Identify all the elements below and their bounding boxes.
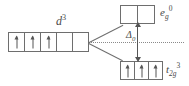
up-arrow-icon bbox=[138, 64, 145, 77]
orbital-cell bbox=[120, 61, 135, 80]
up-arrow-icon bbox=[13, 36, 20, 49]
free-ion-label-superscript: 3 bbox=[62, 13, 66, 22]
up-arrow-icon bbox=[152, 64, 159, 77]
orbital-cell bbox=[72, 32, 89, 52]
orbital-cell bbox=[40, 32, 57, 52]
eg-label-superscript: 0 bbox=[169, 4, 173, 13]
up-arrow-icon bbox=[124, 64, 131, 77]
t2g-label-superscript: 3 bbox=[177, 61, 181, 70]
up-arrow-icon bbox=[45, 36, 52, 49]
orbital-cell bbox=[8, 32, 25, 52]
eg-label-subscript: g bbox=[165, 12, 169, 21]
delta-subscript: 0 bbox=[132, 35, 135, 42]
splitting-energy-label: Δ0 bbox=[126, 30, 135, 43]
tie-line-to-eg bbox=[89, 25, 123, 43]
orbital-cell bbox=[56, 32, 73, 52]
orbital-cell bbox=[134, 61, 149, 80]
tie-line-to-t2g bbox=[89, 43, 123, 61]
eg-label: eg0 bbox=[160, 5, 172, 20]
orbital-cell bbox=[24, 32, 41, 52]
t2g-label-subscript: 2g bbox=[169, 69, 176, 78]
t2g-label: t2g3 bbox=[166, 62, 180, 77]
up-arrow-icon bbox=[29, 36, 36, 49]
crystal-field-splitting-diagram: d3 eg0 t2g3 Δ0 bbox=[0, 0, 189, 86]
orbital-cell bbox=[148, 61, 163, 80]
free-ion-orbital-box bbox=[8, 32, 89, 52]
free-ion-label: d3 bbox=[56, 14, 66, 27]
t2g-orbital-box bbox=[120, 61, 163, 80]
